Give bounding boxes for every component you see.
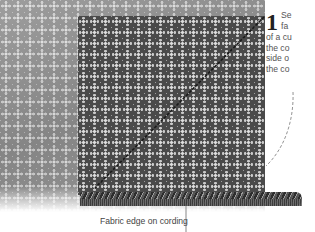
leader-curve-line [266,92,293,166]
fabric-edge-caption: Fabric edge on cording [100,216,188,226]
step-text-line: of a cu [266,32,315,43]
step-text-line: the co [266,43,315,54]
diagonal-seam-line [95,17,264,188]
step-number: 1 [266,12,278,32]
step-instruction: 1 Se fa of a cu the co side o the co [266,10,315,74]
step-text-line: the co [266,64,315,75]
step-text-line: side o [266,53,315,64]
